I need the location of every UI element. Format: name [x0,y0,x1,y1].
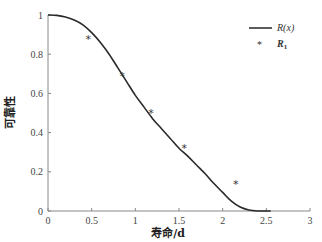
data-point-star-icon: * [119,70,125,83]
x-tick-label: 2.5 [260,215,273,226]
legend: R(x) * R1 [249,22,295,51]
x-tick-label: 1.5 [173,215,186,226]
y-tick-label: 0.8 [31,49,44,60]
plot-area: ***** [48,15,271,211]
x-axis-title: 寿命/d [151,226,185,240]
x-tick-label: 1 [133,215,138,226]
data-point-star-icon: * [181,142,187,155]
y-tick-label: 0 [38,206,43,217]
data-point-star-icon: * [233,178,239,191]
x-tick-label: 3 [308,215,313,226]
data-point-star-icon: * [148,107,154,120]
y-tick-label: 1 [38,10,43,21]
y-tick-label: 0.2 [31,166,44,177]
x-tick-label: 2 [220,215,225,226]
legend-label-r1: R1 [276,38,288,51]
y-tick-label: 0.6 [31,88,44,99]
reliability-chart: 00.511.522.5300.20.40.60.81 ***** R(x) *… [0,0,322,242]
x-tick-label: 0.5 [85,215,98,226]
x-tick-label: 0 [46,215,51,226]
legend-label-rx: R(x) [276,22,295,34]
legend-marker-star-icon: * [257,39,262,50]
axes: 00.511.522.5300.20.40.60.81 [31,10,313,227]
data-point-star-icon: * [85,33,91,46]
y-axis-title: 可靠性 [3,96,17,129]
y-tick-label: 0.4 [31,127,44,138]
